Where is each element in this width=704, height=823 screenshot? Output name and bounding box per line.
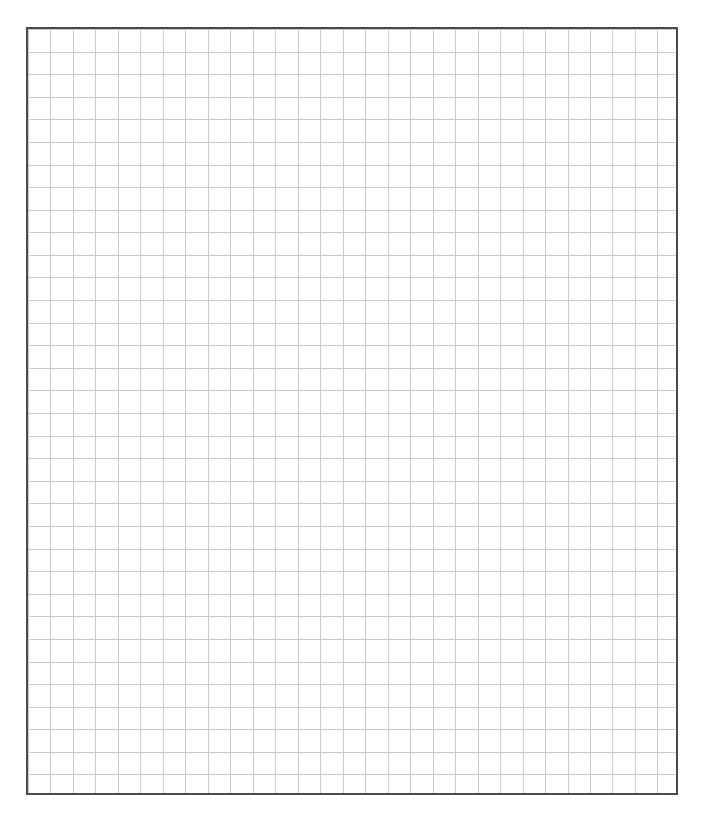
graph-paper-sheet: [26, 27, 678, 795]
grid-ruling: [28, 29, 676, 793]
